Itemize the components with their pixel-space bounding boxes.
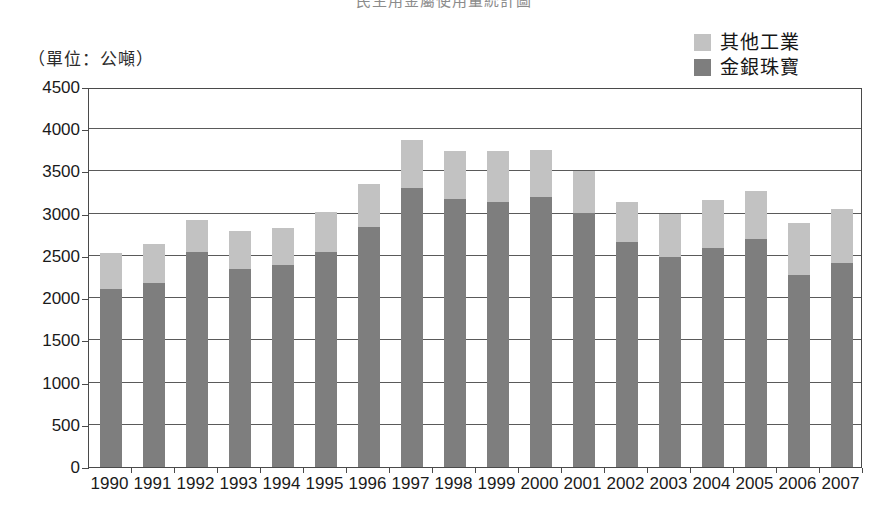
gridline [89,170,861,171]
bar-segment-other-industry[interactable] [831,209,853,262]
bar-segment-other-industry[interactable] [616,202,638,243]
y-axis-tick-mark [82,468,89,469]
bar-segment-jewellery[interactable] [444,199,466,467]
y-axis-tick-label: 2500 [8,247,80,267]
bar-segment-other-industry[interactable] [401,140,423,188]
x-axis-tick-label: 2000 [518,474,561,494]
bar-column[interactable] [272,228,294,467]
bar-column[interactable] [315,212,337,467]
bar-segment-other-industry[interactable] [788,223,810,275]
bar-column[interactable] [831,209,853,467]
bar-segment-other-industry[interactable] [487,151,509,202]
bar-column[interactable] [229,231,251,467]
x-axis-tick-label: 2007 [819,474,862,494]
x-axis-tick-label: 1992 [174,474,217,494]
bar-segment-jewellery[interactable] [315,252,337,467]
bar-segment-jewellery[interactable] [186,252,208,467]
bar-column[interactable] [487,151,509,467]
bar-column[interactable] [100,253,122,467]
x-axis-tick-mark [690,468,691,473]
bar-segment-other-industry[interactable] [143,244,165,283]
x-axis-tick-label: 1991 [131,474,174,494]
bar-segment-jewellery[interactable] [530,197,552,467]
bar-segment-jewellery[interactable] [401,188,423,467]
x-axis-tick-mark [819,468,820,473]
bar-segment-other-industry[interactable] [745,191,767,239]
bar-segment-jewellery[interactable] [702,248,724,467]
plot-area [88,88,862,468]
y-axis-tick-mark [82,384,89,385]
y-axis-tick-mark [82,130,89,131]
bar-segment-jewellery[interactable] [229,269,251,467]
x-axis-tick-mark [432,468,433,473]
x-axis-tick-mark [647,468,648,473]
bar-segment-jewellery[interactable] [788,275,810,467]
chart-canvas: 4500400035003000250020001500100050001990… [0,0,888,523]
bar-column[interactable] [702,200,724,467]
y-axis-tick-mark [82,172,89,173]
bar-segment-other-industry[interactable] [573,171,595,212]
y-axis-tick-label: 4500 [8,78,80,98]
bar-segment-other-industry[interactable] [315,212,337,252]
x-axis-tick-label: 2002 [604,474,647,494]
x-axis-tick-mark [131,468,132,473]
bar-segment-jewellery[interactable] [358,227,380,467]
x-axis-tick-label: 1993 [217,474,260,494]
bar-column[interactable] [616,202,638,467]
bar-column[interactable] [573,171,595,467]
y-axis-tick-mark [82,341,89,342]
bar-segment-other-industry[interactable] [444,151,466,199]
bar-segment-jewellery[interactable] [659,257,681,467]
bar-segment-jewellery[interactable] [100,289,122,467]
bar-column[interactable] [358,184,380,467]
bar-segment-jewellery[interactable] [143,283,165,467]
y-axis-tick-mark [82,426,89,427]
y-axis-tick-label: 500 [8,416,80,436]
x-axis-tick-label: 2004 [690,474,733,494]
bar-segment-other-industry[interactable] [229,231,251,269]
x-axis-tick-mark [862,468,863,473]
x-axis-tick-label: 1999 [475,474,518,494]
bar-column[interactable] [659,214,681,467]
x-axis-tick-label: 2001 [561,474,604,494]
bar-segment-jewellery[interactable] [272,265,294,467]
gridline [89,128,861,129]
bar-segment-other-industry[interactable] [186,220,208,252]
x-axis-tick-mark [733,468,734,473]
x-axis-tick-mark [475,468,476,473]
bar-column[interactable] [186,220,208,467]
x-axis-tick-mark [561,468,562,473]
y-axis-tick-label: 1500 [8,331,80,351]
bar-segment-other-industry[interactable] [100,253,122,289]
bar-column[interactable] [788,223,810,467]
x-axis-tick-label: 2003 [647,474,690,494]
bar-column[interactable] [530,150,552,468]
bar-segment-other-industry[interactable] [358,184,380,227]
bar-segment-other-industry[interactable] [272,228,294,265]
x-axis-tick-mark [303,468,304,473]
y-axis-tick-label: 2000 [8,289,80,309]
y-axis-tick-mark [82,215,89,216]
bar-segment-jewellery[interactable] [745,239,767,467]
bar-segment-other-industry[interactable] [659,214,681,257]
y-axis-tick-label: 1000 [8,374,80,394]
bar-segment-jewellery[interactable] [831,263,853,467]
bar-column[interactable] [444,151,466,467]
x-axis-tick-mark [518,468,519,473]
bar-column[interactable] [401,140,423,467]
x-axis-tick-label: 1996 [346,474,389,494]
y-axis-tick-mark [82,299,89,300]
bar-column[interactable] [143,244,165,467]
bar-segment-jewellery[interactable] [616,242,638,467]
x-axis-tick-label: 1990 [88,474,131,494]
bar-segment-jewellery[interactable] [487,202,509,467]
y-axis-tick-label: 3000 [8,205,80,225]
y-axis-tick-label: 4000 [8,120,80,140]
bar-segment-jewellery[interactable] [573,213,595,467]
bar-segment-other-industry[interactable] [702,200,724,248]
x-axis-tick-label: 1998 [432,474,475,494]
x-axis-tick-mark [217,468,218,473]
bar-column[interactable] [745,191,767,467]
bar-segment-other-industry[interactable] [530,150,552,197]
y-axis-tick-label: 3500 [8,162,80,182]
